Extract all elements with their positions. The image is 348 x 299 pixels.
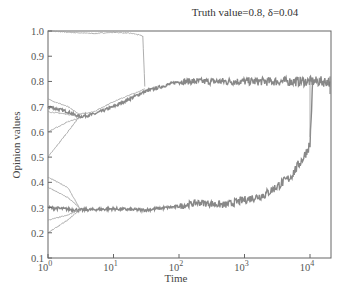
curve-upper-start-0.6 <box>48 118 79 132</box>
x-tick-label: 102 <box>169 259 184 273</box>
x-tick-label: 104 <box>300 259 315 273</box>
x-tick-label: 103 <box>234 259 249 273</box>
x-axis-label: Time <box>165 272 188 284</box>
curve-upper-start-1.0 <box>48 31 145 87</box>
y-tick-label: 0.9 <box>31 51 44 62</box>
x-tick-label: 100 <box>38 259 53 273</box>
x-axis: 100101102103104 <box>38 254 315 273</box>
chart-title: Truth value=0.8, δ=0.04 <box>192 6 299 18</box>
curve-lower-start-0.38 <box>48 187 79 207</box>
y-tick-label: 1.0 <box>31 26 44 37</box>
curves <box>48 31 330 234</box>
y-tick-label: 0.6 <box>31 127 44 138</box>
y-axis-label: Opinion values <box>10 112 22 179</box>
curve-lower-start-0.2 <box>48 210 79 233</box>
curve-lower-cluster <box>48 81 313 211</box>
plot-area <box>48 31 331 258</box>
opinion-chart: Truth value=0.8, δ=0.04 0.10.20.30.40.50… <box>0 0 348 299</box>
curve-upper-cluster <box>48 76 330 117</box>
y-tick-label: 0.7 <box>31 102 44 113</box>
x-tick-label: 101 <box>103 259 118 273</box>
curve-upper-start-0.5 <box>48 117 79 158</box>
plot-frame <box>48 31 331 258</box>
y-tick-label: 0.4 <box>31 177 45 188</box>
y-tick-label: 0.8 <box>31 76 44 87</box>
y-axis: 0.10.20.30.40.50.60.70.80.91.0 <box>31 26 52 264</box>
y-tick-label: 0.2 <box>31 228 44 239</box>
y-tick-label: 0.3 <box>31 203 44 214</box>
y-tick-label: 0.5 <box>31 152 44 163</box>
